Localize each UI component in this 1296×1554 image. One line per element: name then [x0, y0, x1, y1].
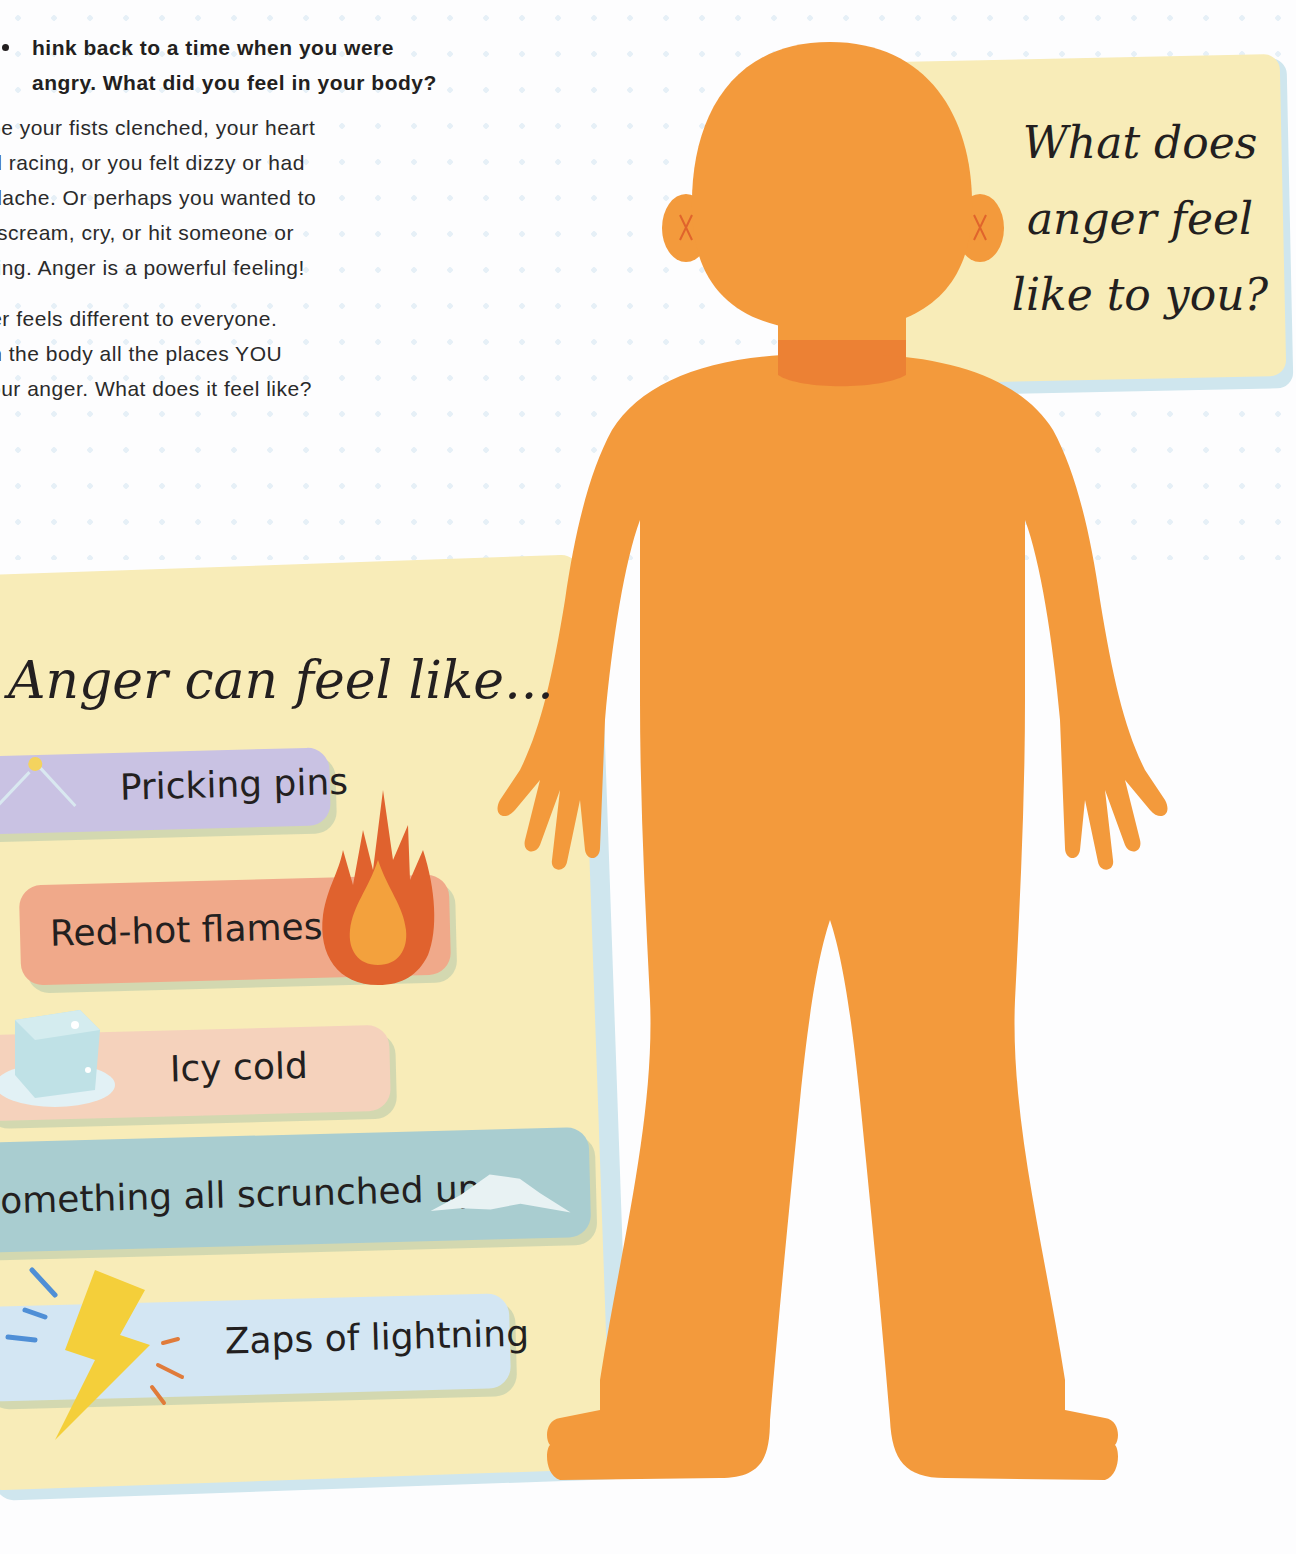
- feeling-item-scrunched-up: omething all scrunched up: [0, 1127, 591, 1253]
- question-line-3: like to you?: [1010, 257, 1270, 333]
- intro-question-text: hink back to a time when you were angry.…: [32, 36, 437, 94]
- flame-icon: [318, 790, 438, 990]
- intro-paragraph-1: ybe your fists clenched, your heart ed r…: [0, 110, 460, 285]
- question-line-1: What does: [1010, 105, 1270, 181]
- intro-paragraph-2: ger feels different to everyone. on the …: [0, 301, 460, 406]
- ice-cube-icon: [0, 990, 130, 1120]
- feelings-card-title: Anger can feel like...: [8, 650, 554, 710]
- bullet-icon: [2, 44, 9, 51]
- feeling-label: Zaps of lightning: [224, 1313, 529, 1362]
- feeling-label: Red-hot flames: [49, 906, 322, 954]
- intro-text: hink back to a time when you were angry.…: [0, 30, 460, 422]
- feeling-label: Icy cold: [169, 1045, 308, 1090]
- crumpled-paper-icon: [430, 1167, 571, 1221]
- neck-highlight: [778, 340, 906, 386]
- intro-question: hink back to a time when you were angry.…: [0, 30, 460, 100]
- question-card-text: What does anger feel like to you?: [1010, 105, 1270, 333]
- feeling-item-pricking-pins: Pricking pins: [0, 747, 331, 834]
- question-line-2: anger feel: [1010, 181, 1270, 257]
- lightning-icon: [0, 1265, 190, 1445]
- feeling-label: omething all scrunched up: [0, 1168, 481, 1222]
- feeling-label: Pricking pins: [119, 761, 348, 808]
- pin-icon: [0, 746, 81, 838]
